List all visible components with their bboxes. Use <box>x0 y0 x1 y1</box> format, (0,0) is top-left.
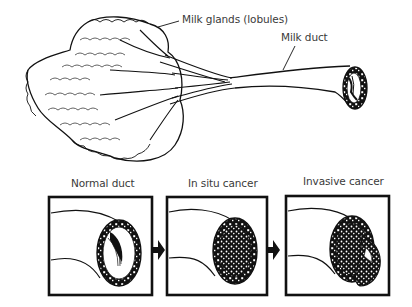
breast-anatomy-diagram <box>0 0 412 307</box>
lobule-cluster <box>26 17 183 161</box>
panel-normal-duct <box>49 197 152 295</box>
label-milk-duct: Milk duct <box>281 31 328 43</box>
panel-in-situ-cancer <box>167 197 267 295</box>
leader-lines <box>158 21 295 70</box>
panel-invasive-cancer <box>286 196 389 295</box>
right-arrow-icon <box>268 240 280 260</box>
panel-title-normal-duct: Normal duct <box>71 177 134 189</box>
panel-title-invasive-cancer: Invasive cancer <box>303 175 384 187</box>
milk-duct <box>230 66 352 108</box>
right-arrow-icon <box>153 240 165 260</box>
duct-cross-section <box>343 67 367 109</box>
panel-title-in-situ-cancer: In situ cancer <box>188 177 258 189</box>
label-milk-glands: Milk glands (lobules) <box>182 13 288 25</box>
